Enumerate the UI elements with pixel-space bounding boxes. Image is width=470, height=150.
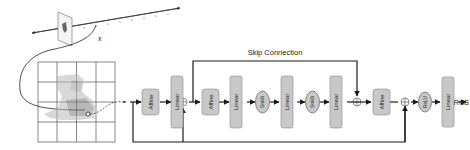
linear-block-1: Linear xyxy=(171,76,183,128)
rgb-output-label: RGB xyxy=(454,99,470,106)
camera-ray: x xyxy=(32,8,180,46)
svg-text:Swish: Swish xyxy=(260,96,265,109)
svg-text:ReLU: ReLU xyxy=(423,96,428,108)
svg-text:Linear: Linear xyxy=(445,94,451,111)
diagram-canvas: x xyxy=(0,0,470,150)
relu-block: ReLU xyxy=(419,92,432,112)
svg-text:Linear: Linear xyxy=(284,94,290,111)
sample-point xyxy=(86,112,90,116)
swish-block-1: Swish xyxy=(256,91,270,113)
linear-block-4: Linear xyxy=(330,76,342,128)
affine-block-2: Affine xyxy=(202,89,219,115)
svg-text:Swish: Swish xyxy=(310,96,315,109)
linear-block-3: Linear xyxy=(281,76,293,128)
svg-text:Linear: Linear xyxy=(233,94,239,111)
svg-text:Affine: Affine xyxy=(379,94,385,110)
svg-text:Affine: Affine xyxy=(208,94,214,110)
linear-block-2: Linear xyxy=(230,76,242,128)
svg-text:Linear: Linear xyxy=(333,94,339,111)
svg-text:Affine: Affine xyxy=(148,94,154,110)
linear-block-5: Linear xyxy=(442,77,454,127)
affine-block-1: Affine xyxy=(142,89,159,115)
affine-block-3: Affine xyxy=(373,89,390,115)
x-label: x xyxy=(98,35,102,42)
swish-block-2: Swish xyxy=(306,91,320,113)
ray-samples xyxy=(83,13,168,28)
svg-text:Linear: Linear xyxy=(174,94,180,111)
skip-connection-label: Skip Connection xyxy=(248,48,303,57)
